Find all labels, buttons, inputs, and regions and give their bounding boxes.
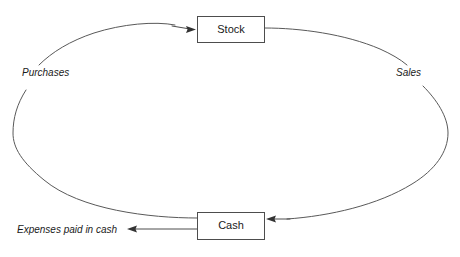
edge-cash-to-stock-lower: [13, 90, 197, 218]
node-cash: Cash: [198, 213, 265, 240]
edge-label-expenses-paid-in-cash: Expenses paid in cash: [17, 224, 118, 235]
node-stock-label: Stock: [217, 23, 245, 35]
arrowhead-into-cash: [266, 216, 276, 223]
arrowhead-into-stock: [186, 26, 196, 33]
edge-label-sales: Sales: [396, 67, 421, 78]
cycle-diagram-canvas: Stock Cash Purchases Sales Expenses paid…: [0, 0, 460, 257]
edge-stock-to-cash-upper: [265, 28, 407, 65]
working-capital-cycle-svg: Stock Cash Purchases Sales Expenses paid…: [0, 0, 460, 257]
edge-cash-to-stock-upper: [39, 23, 175, 65]
node-cash-label: Cash: [218, 219, 244, 231]
arrowhead-into-expenses: [127, 226, 137, 233]
edge-stock-to-cash-lower: [287, 86, 448, 219]
edge-label-purchases: Purchases: [22, 67, 69, 78]
node-stock: Stock: [198, 17, 265, 43]
